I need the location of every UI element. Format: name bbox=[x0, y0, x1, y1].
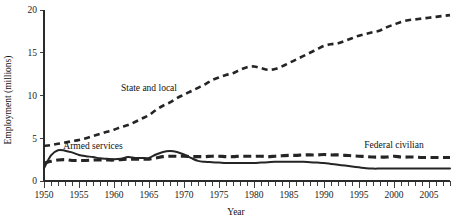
y-tick-label: 10 bbox=[28, 91, 38, 101]
x-axis-major-ticks bbox=[44, 181, 429, 188]
x-tick-label: 2005 bbox=[420, 190, 439, 200]
series-annotations: State and localArmed servicesFederal civ… bbox=[63, 83, 424, 151]
x-tick-label: 1960 bbox=[105, 190, 124, 200]
series-line-state-and-local bbox=[44, 15, 450, 146]
x-tick-label: 1955 bbox=[70, 190, 89, 200]
series-line-armed-services bbox=[44, 150, 450, 169]
y-axis-tick-labels: 05101520 bbox=[28, 5, 38, 186]
x-tick-label: 1980 bbox=[245, 190, 264, 200]
y-tick-label: 0 bbox=[32, 176, 37, 186]
x-tick-label: 1975 bbox=[210, 190, 229, 200]
x-tick-label: 1965 bbox=[140, 190, 159, 200]
series-label-state-and-local: State and local bbox=[121, 83, 177, 93]
y-tick-label: 20 bbox=[28, 5, 38, 15]
y-axis-group: 05101520 bbox=[28, 5, 45, 186]
x-axis-title: Year bbox=[227, 207, 245, 217]
x-axis-minor-ticks bbox=[51, 181, 450, 186]
x-axis-group: 1950195519601965197019751980198519901995… bbox=[35, 181, 451, 200]
x-tick-label: 1990 bbox=[315, 190, 334, 200]
chart-canvas: 05101520 1950195519601965197019751980198… bbox=[0, 0, 455, 223]
x-axis-tick-labels: 1950195519601965197019751980198519901995… bbox=[35, 190, 439, 200]
y-tick-label: 5 bbox=[32, 134, 37, 144]
y-tick-label: 15 bbox=[28, 48, 38, 58]
x-tick-label: 1970 bbox=[175, 190, 194, 200]
y-axis-title: Employment (millions) bbox=[3, 56, 14, 145]
series-label-armed-services: Armed services bbox=[63, 141, 123, 151]
employment-line-chart: 05101520 1950195519601965197019751980198… bbox=[0, 0, 455, 223]
y-axis-ticks bbox=[40, 10, 44, 181]
x-tick-label: 1985 bbox=[280, 190, 299, 200]
series-label-federal-civilian: Federal civilian bbox=[364, 140, 424, 150]
x-tick-label: 1995 bbox=[350, 190, 369, 200]
x-tick-label: 1950 bbox=[35, 190, 54, 200]
x-tick-label: 2000 bbox=[385, 190, 404, 200]
